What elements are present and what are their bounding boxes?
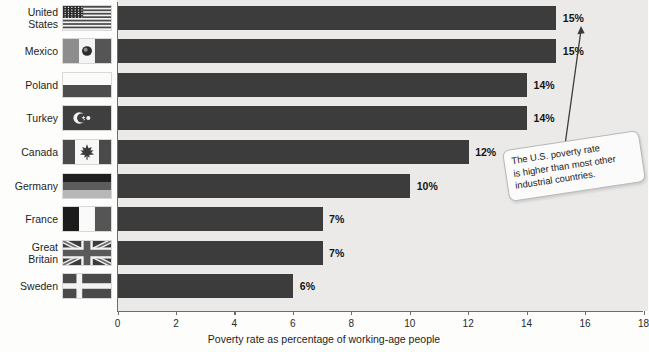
x-axis-tick — [468, 311, 469, 315]
x-axis-tick-label: 6 — [290, 318, 296, 329]
country-label: Turkey — [0, 112, 58, 124]
bar — [118, 207, 323, 231]
table-row: Mexico 15% — [0, 38, 648, 64]
x-axis-tick — [176, 311, 177, 315]
x-axis-tick — [527, 311, 528, 315]
flag-germany-icon — [62, 173, 112, 199]
x-axis-line — [117, 311, 643, 312]
x-axis-tick — [293, 311, 294, 315]
bar — [118, 174, 410, 198]
flag-mexico-icon — [62, 38, 112, 64]
bar-value-label: 15% — [563, 45, 584, 57]
x-axis-tick — [118, 311, 119, 315]
country-label: Poland — [0, 79, 58, 91]
bar — [118, 39, 556, 63]
country-label: Germany — [0, 180, 58, 192]
country-label: France — [0, 213, 58, 225]
bar-value-label: 14% — [534, 112, 555, 124]
flag-canada-icon — [62, 139, 112, 165]
x-axis-tick-label: 16 — [579, 318, 590, 329]
country-label: UnitedStates — [0, 5, 58, 30]
x-axis-tick-label: 12 — [463, 318, 474, 329]
table-row: Sweden 6% — [0, 273, 648, 299]
flag-france-icon — [62, 206, 112, 232]
bar-value-label: 7% — [329, 213, 344, 225]
flag-great-britain-icon — [62, 240, 112, 266]
bar-value-label: 15% — [563, 12, 584, 24]
bar — [118, 73, 527, 97]
country-label: Canada — [0, 146, 58, 158]
table-row: Great Britain 7% — [0, 240, 648, 266]
bar — [118, 241, 323, 265]
flag-united-states-icon — [62, 5, 112, 31]
x-axis-label: Poverty rate as percentage of working-ag… — [0, 333, 648, 345]
bar-value-label: 12% — [475, 146, 496, 158]
x-axis-tick-label: 8 — [348, 318, 354, 329]
country-label: Great Britain — [0, 241, 58, 265]
country-label: Mexico — [0, 45, 58, 57]
bar — [118, 106, 527, 130]
x-axis-tick — [410, 311, 411, 315]
bar — [118, 140, 469, 164]
x-axis-tick-label: 18 — [638, 318, 649, 329]
table-row: UnitedStates 15% — [0, 5, 648, 31]
x-axis-tick-label: 2 — [173, 318, 179, 329]
x-axis-tick-label: 10 — [404, 318, 415, 329]
bar-value-label: 7% — [329, 247, 344, 259]
x-axis-tick — [351, 311, 352, 315]
flag-turkey-icon — [62, 105, 112, 131]
bar — [118, 6, 556, 30]
country-label: Sweden — [0, 280, 58, 292]
x-axis-tick — [644, 311, 645, 315]
bar — [118, 274, 293, 298]
flag-poland-icon — [62, 72, 112, 98]
table-row: France 7% — [0, 206, 648, 232]
x-axis-tick-label: 4 — [232, 318, 238, 329]
bar-value-label: 6% — [300, 280, 315, 292]
flag-sweden-icon — [62, 273, 112, 299]
x-axis-tick — [585, 311, 586, 315]
x-axis-tick-label: 14 — [521, 318, 532, 329]
bar-value-label: 14% — [534, 79, 555, 91]
x-axis-tick-label: 0 — [115, 318, 121, 329]
x-axis-tick — [234, 311, 235, 315]
table-row: Poland 14% — [0, 72, 648, 98]
bar-value-label: 10% — [417, 180, 438, 192]
table-row: Turkey 14% — [0, 105, 648, 131]
